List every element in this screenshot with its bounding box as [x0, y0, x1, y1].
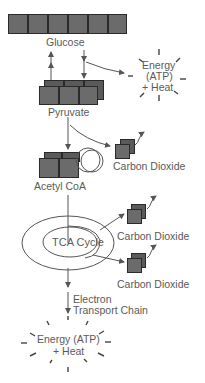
energy-top-line3: + Heat [142, 82, 173, 93]
connector-lines [0, 0, 205, 383]
tca-cycle-label: TCA Cycle [52, 237, 104, 249]
etc-label-line2: Transport Chain [73, 305, 148, 316]
energy-bottom-line2: + Heat [53, 346, 84, 357]
energy-bottom-line1: Energy (ATP) [37, 334, 100, 345]
